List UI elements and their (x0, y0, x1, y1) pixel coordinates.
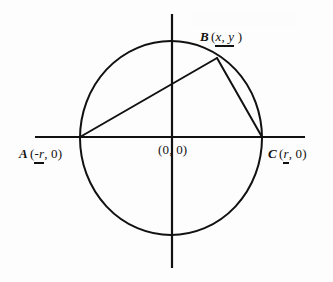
label-point-c-close-paren: ) (302, 146, 307, 161)
label-point-b: B(x, y ) (200, 30, 242, 43)
label-point-a: A(-r, 0) (19, 147, 62, 160)
label-point-a-coord-x: -r (34, 146, 44, 161)
geometry-figure (0, 0, 333, 282)
label-point-c-coord-x-group: r (283, 147, 288, 160)
chord-ab (80, 58, 217, 137)
label-point-c: C(r, 0) (268, 147, 307, 160)
label-origin: (0, 0) (158, 143, 187, 156)
label-point-a-name: A (19, 146, 30, 161)
label-point-a-underline (34, 162, 44, 164)
label-point-a-close-paren: ) (58, 146, 63, 161)
label-point-a-coord-x-group: -r (34, 147, 44, 160)
label-point-b-coord-y: y (228, 29, 234, 44)
label-point-b-coords-group: x, y (215, 30, 234, 43)
label-point-b-name: B (200, 29, 211, 44)
chord-bc (217, 58, 262, 137)
scan-artifact (192, 12, 296, 26)
label-point-c-coord-x: r (283, 146, 288, 161)
label-point-a-coord-y: 0 (51, 146, 58, 161)
label-point-b-close-paren: ) (234, 29, 242, 44)
label-point-c-underline (283, 162, 288, 164)
label-point-c-comma: , (289, 146, 296, 161)
label-point-b-underline (215, 45, 234, 47)
label-point-c-name: C (268, 146, 279, 161)
